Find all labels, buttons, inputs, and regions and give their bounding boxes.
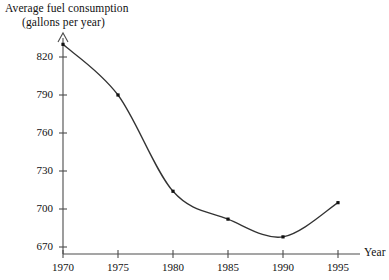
y-tick-label: 760 xyxy=(25,126,53,138)
y-tick-label: 730 xyxy=(25,164,53,176)
data-point-marker xyxy=(171,190,174,193)
data-point-marker xyxy=(61,43,64,46)
y-tick-label: 820 xyxy=(25,50,53,62)
x-tick-label: 1995 xyxy=(321,261,355,273)
plot-area xyxy=(0,0,389,280)
data-point-marker xyxy=(226,218,229,221)
x-tick-label: 1980 xyxy=(156,261,190,273)
chart-container: Average fuel consumption (gallons per ye… xyxy=(0,0,389,280)
y-tick-label: 700 xyxy=(25,202,53,214)
data-point-marker xyxy=(336,201,339,204)
data-points xyxy=(61,43,339,239)
x-tick-label: 1985 xyxy=(211,261,245,273)
x-tick-label: 1975 xyxy=(101,261,135,273)
data-point-marker xyxy=(116,93,119,96)
data-curve xyxy=(63,44,338,237)
x-tick-label: 1970 xyxy=(46,261,80,273)
x-tick-label: 1990 xyxy=(266,261,300,273)
y-tick-label: 670 xyxy=(25,240,53,252)
data-point-marker xyxy=(281,235,284,238)
y-tick-label: 790 xyxy=(25,88,53,100)
